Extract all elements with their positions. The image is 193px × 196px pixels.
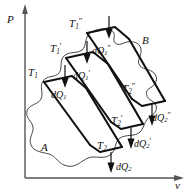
dQ2p-arrow (128, 128, 133, 147)
heat-label-dq2-double-prime: dQ2″ (152, 112, 171, 124)
cycle3-isotherm-cold (132, 99, 165, 106)
dq2pp-base: dQ (152, 112, 164, 123)
region-a-label: A (41, 142, 48, 153)
pv-diagram-figure: P v A B T1 T1′ T1″ T2 T2′ T2″ dQ1 dQ1′ d… (0, 0, 193, 196)
t1pp-prime: ″ (79, 16, 83, 26)
isotherm-label-t2-double-prime: T2″ (122, 82, 135, 96)
heat-label-dq2-prime: dQ2′ (134, 138, 151, 150)
heat-label-dq2: dQ2 (116, 161, 132, 173)
dq2pp-prime: ″ (168, 111, 171, 120)
dq2p-base: dQ (134, 138, 146, 149)
isotherm-label-t2-prime: T2′ (111, 114, 123, 128)
dq1pp-prime: ″ (108, 44, 111, 53)
dQ1-arrow (62, 65, 67, 86)
heat-label-dq1-double-prime: dQ1″ (92, 45, 111, 57)
t1-subscript: 1 (34, 72, 38, 80)
t1p-prime: ′ (60, 41, 62, 51)
dq1pp-base: dQ (92, 45, 104, 56)
dq2-base: dQ (116, 161, 128, 172)
heat-label-dq1: dQ1 (51, 89, 67, 101)
dq2-subscript: 2 (128, 165, 131, 172)
t2p-prime: ′ (121, 113, 123, 123)
heat-label-dq1-prime: dQ1′ (73, 70, 90, 82)
t2-subscript: 2 (103, 145, 107, 153)
y-axis-arrowhead (22, 4, 28, 14)
isotherm-label-t1-double-prime: T1″ (69, 17, 82, 31)
isotherm-label-t1-prime: T1′ (50, 42, 62, 56)
isotherm-label-t1: T1 (28, 66, 38, 80)
dq2p-prime: ′ (150, 137, 152, 146)
dq1-subscript: 1 (63, 93, 66, 100)
y-axis-label: P (7, 14, 14, 25)
diagram-canvas (0, 0, 193, 196)
region-b-label: B (142, 35, 149, 46)
x-axis-label: v (175, 180, 180, 191)
cycle2-adiabat-left (66, 58, 111, 122)
isotherm-label-t2: T2 (97, 139, 107, 153)
dq1p-prime: ′ (89, 69, 91, 78)
dq1-base: dQ (51, 89, 63, 100)
t2pp-prime: ″ (132, 81, 136, 91)
dQ1pp-arrow (106, 16, 111, 37)
dQ2-arrow (108, 152, 113, 171)
dq1p-base: dQ (73, 70, 85, 81)
